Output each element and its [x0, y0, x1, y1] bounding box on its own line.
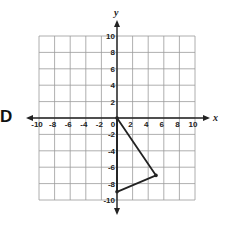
- y-tick-label: -4: [108, 147, 116, 156]
- x-tick-label: -10: [31, 120, 43, 129]
- x-tick-label: 8: [175, 120, 180, 129]
- coordinate-plane: xy -10-8-6-4-20246810108642-2-4-6-8-10: [0, 0, 235, 234]
- y-axis-down-arrow-icon: [114, 208, 120, 215]
- x-tick-label: -4: [80, 120, 88, 129]
- x-tick-label: -8: [49, 120, 57, 129]
- vertex-point: [154, 174, 158, 178]
- y-tick-label: -10: [103, 196, 115, 205]
- y-tick-label: 8: [111, 48, 116, 57]
- x-axis-label: x: [212, 112, 218, 123]
- x-tick-label: -6: [65, 120, 73, 129]
- x-tick-label: 6: [160, 120, 165, 129]
- triangle-shape: [115, 116, 158, 193]
- x-tick-label: 0: [111, 120, 116, 129]
- y-tick-label: 4: [111, 81, 116, 90]
- y-axis-up-arrow-icon: [114, 20, 120, 27]
- x-tick-label: -2: [96, 120, 104, 129]
- vertex-point: [115, 190, 119, 194]
- y-tick-label: 2: [111, 98, 116, 107]
- y-tick-label: -6: [108, 163, 116, 172]
- y-tick-label: -8: [108, 180, 116, 189]
- y-tick-label: 6: [111, 65, 116, 74]
- x-axis-right-arrow-icon: [203, 115, 210, 121]
- x-tick-label: 10: [189, 120, 198, 129]
- x-tick-label: 2: [128, 120, 133, 129]
- triangle-outline: [117, 118, 156, 192]
- x-tick-label: 4: [144, 120, 149, 129]
- y-tick-label: 10: [106, 32, 115, 41]
- vertex-point: [115, 116, 119, 120]
- y-axis-label: y: [113, 7, 119, 18]
- y-tick-label: -2: [108, 130, 116, 139]
